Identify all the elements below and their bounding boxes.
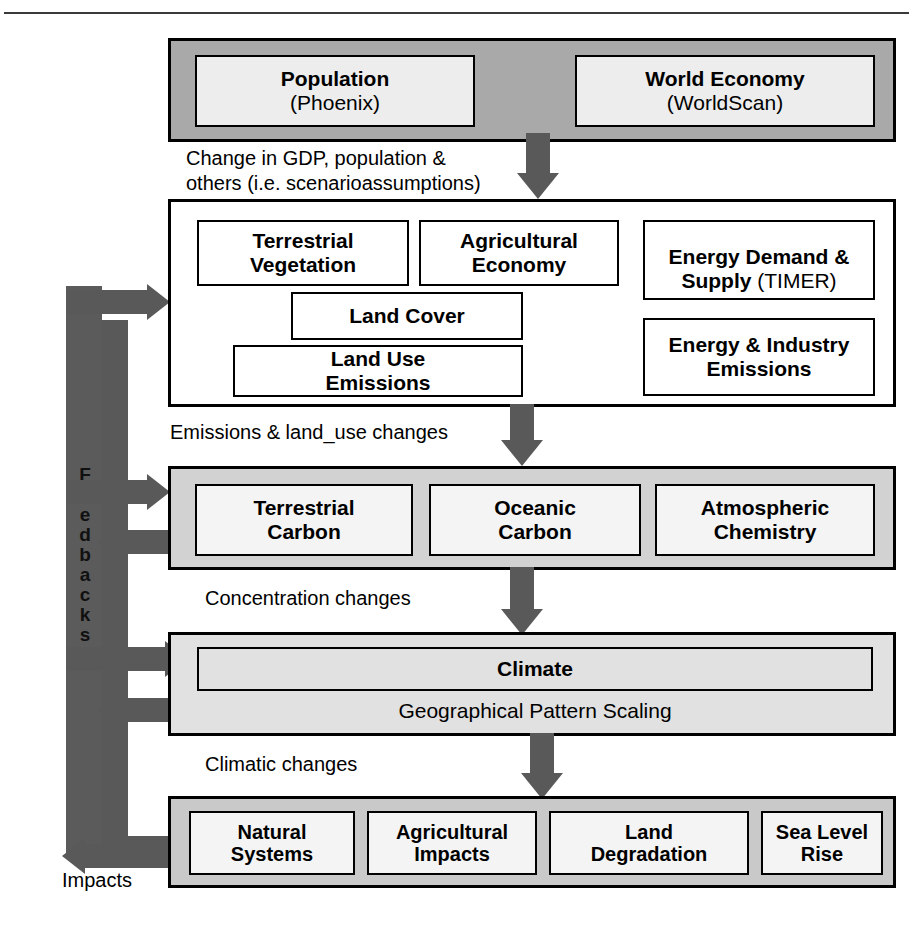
cell-terrestrial-carbon[interactable]: Terrestrial Carbon bbox=[195, 484, 413, 556]
image-model-block: Terrestrial Vegetation Agricultural Econ… bbox=[168, 199, 896, 407]
cell-terrestrial-vegetation[interactable]: Terrestrial Vegetation bbox=[197, 220, 409, 286]
label-drivers-to-image: Change in GDP, population & others (i.e.… bbox=[186, 146, 516, 196]
feedback-letter: k bbox=[80, 605, 91, 625]
driver-world-economy-cell[interactable]: World Economy (WorldScan) bbox=[575, 55, 875, 127]
driver-population-title: Population bbox=[281, 67, 390, 91]
cell-land-degradation[interactable]: Land Degradation bbox=[549, 811, 749, 875]
feedback-to-image-arrow bbox=[66, 284, 170, 320]
driver-world-economy-title: World Economy bbox=[645, 67, 804, 91]
cell-land-use-emissions[interactable]: Land Use Emissions bbox=[233, 345, 523, 397]
cell-agricultural-economy[interactable]: Agricultural Economy bbox=[419, 220, 619, 286]
cell-land-use-emissions-title: Land Use Emissions bbox=[325, 347, 430, 394]
feedback-letter: a bbox=[80, 565, 91, 585]
cell-sea-level-rise-title: Sea Level Rise bbox=[776, 821, 868, 866]
cell-agricultural-economy-title: Agricultural Economy bbox=[460, 229, 578, 276]
feedback-letter: c bbox=[80, 585, 91, 605]
driver-world-economy-sub: (WorldScan) bbox=[667, 91, 783, 115]
driver-population-cell[interactable]: Population (Phoenix) bbox=[195, 55, 475, 127]
climate-subtitle: Geographical Pattern Scaling bbox=[197, 699, 873, 723]
label-climate-to-impacts: Climatic changes bbox=[205, 752, 505, 777]
feedback-letter: d bbox=[79, 525, 91, 545]
cell-agricultural-impacts[interactable]: Agricultural Impacts bbox=[367, 811, 537, 875]
cell-atmospheric-chemistry[interactable]: Atmospheric Chemistry bbox=[655, 484, 875, 556]
cell-natural-systems-title: Natural Systems bbox=[231, 821, 313, 866]
climate-block: Climate Geographical Pattern Scaling bbox=[168, 632, 896, 736]
cell-energy-industry-emissions[interactable]: Energy & Industry Emissions bbox=[643, 318, 875, 396]
cell-oceanic-carbon-title: Oceanic Carbon bbox=[494, 496, 576, 543]
drivers-block: Population (Phoenix) World Economy (Worl… bbox=[168, 38, 896, 142]
cell-energy-industry-emissions-title: Energy & Industry Emissions bbox=[669, 333, 850, 380]
label-carbon-to-climate: Concentration changes bbox=[205, 586, 505, 611]
cell-atmospheric-chemistry-title: Atmospheric Chemistry bbox=[701, 496, 829, 543]
cell-land-cover-title: Land Cover bbox=[349, 304, 465, 328]
cell-oceanic-carbon[interactable]: Oceanic Carbon bbox=[429, 484, 641, 556]
cell-energy-demand-supply-sub: (TIMER) bbox=[757, 269, 836, 292]
label-impacts: Impacts bbox=[62, 868, 222, 893]
cell-terrestrial-carbon-title: Terrestrial Carbon bbox=[253, 496, 354, 543]
impacts-block: Natural Systems Agricultural Impacts Lan… bbox=[168, 796, 896, 888]
cell-land-degradation-title: Land Degradation bbox=[591, 821, 708, 866]
page-top-rule bbox=[4, 12, 909, 14]
cell-land-cover[interactable]: Land Cover bbox=[291, 292, 523, 340]
cell-natural-systems[interactable]: Natural Systems bbox=[189, 811, 355, 875]
label-image-to-carbon: Emissions & land_use changes bbox=[170, 420, 510, 445]
cell-sea-level-rise[interactable]: Sea Level Rise bbox=[761, 811, 883, 875]
drivers-to-image-arrow bbox=[512, 133, 564, 199]
feedback-letter: b bbox=[79, 545, 91, 565]
feedback-to-carbon-arrow bbox=[66, 474, 170, 510]
cell-climate-title: Climate bbox=[497, 657, 573, 681]
cell-agricultural-impacts-title: Agricultural Impacts bbox=[396, 821, 508, 866]
climate-to-impacts-arrow bbox=[516, 733, 568, 799]
feedback-return-rail bbox=[102, 320, 128, 858]
figure-canvas: F e e d b a c k s bbox=[0, 0, 923, 930]
cell-terrestrial-vegetation-title: Terrestrial Vegetation bbox=[250, 229, 356, 276]
cell-energy-demand-supply[interactable]: Energy Demand & Supply (TIMER) bbox=[643, 220, 875, 300]
cell-climate[interactable]: Climate bbox=[197, 647, 873, 691]
carbon-cycle-block: Terrestrial Carbon Oceanic Carbon Atmosp… bbox=[168, 466, 896, 570]
driver-population-sub: (Phoenix) bbox=[290, 91, 380, 115]
